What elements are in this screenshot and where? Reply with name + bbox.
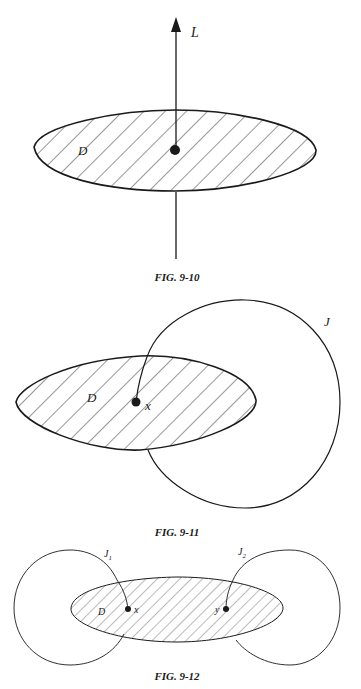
point-x bbox=[132, 398, 141, 407]
label-D: D bbox=[86, 390, 97, 405]
caption-fig-9-11: FIG. 9-11 bbox=[154, 526, 200, 538]
label-x: x bbox=[133, 604, 139, 615]
caption-fig-9-10: FIG. 9-10 bbox=[153, 271, 200, 283]
center-point bbox=[170, 145, 180, 155]
figure-9-11: x D J FIG. 9-11 bbox=[16, 300, 340, 538]
figure-9-12: x y D J1 J2 FIG. 9-12 bbox=[14, 546, 340, 682]
figure-canvas: L D FIG. 9-10 x D J FIG. 9-11 x y D J1 J… bbox=[0, 0, 361, 689]
label-L: L bbox=[190, 25, 199, 40]
label-D: D bbox=[77, 143, 88, 158]
label-J2: J2 bbox=[238, 546, 246, 560]
label-D: D bbox=[97, 606, 106, 617]
arrow-up-icon bbox=[171, 17, 181, 32]
label-J1: J1 bbox=[104, 548, 112, 562]
label-y: y bbox=[214, 604, 220, 615]
point-x bbox=[125, 606, 131, 612]
label-x: x bbox=[144, 398, 151, 413]
figure-9-10: L D FIG. 9-10 bbox=[34, 17, 316, 283]
point-y bbox=[223, 606, 229, 612]
label-J: J bbox=[324, 314, 331, 329]
caption-fig-9-12: FIG. 9-12 bbox=[153, 670, 200, 682]
